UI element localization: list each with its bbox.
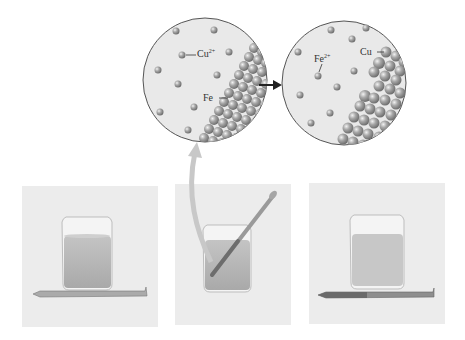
- label-copper-ion: Cu2+: [197, 48, 215, 59]
- figure-graphics: [0, 0, 465, 340]
- zoom-circle-before: [143, 18, 271, 148]
- zoom-circle-after: [282, 21, 410, 151]
- photo-after: [309, 183, 445, 324]
- photo-before: [22, 186, 158, 327]
- label-iron-metal: Fe: [203, 92, 213, 103]
- label-copper-metal: Cu: [360, 46, 372, 57]
- label-iron-ion: Fe2+: [314, 53, 330, 64]
- reaction-figure: Cu2+ Fe Fe2+ Cu: [0, 0, 465, 340]
